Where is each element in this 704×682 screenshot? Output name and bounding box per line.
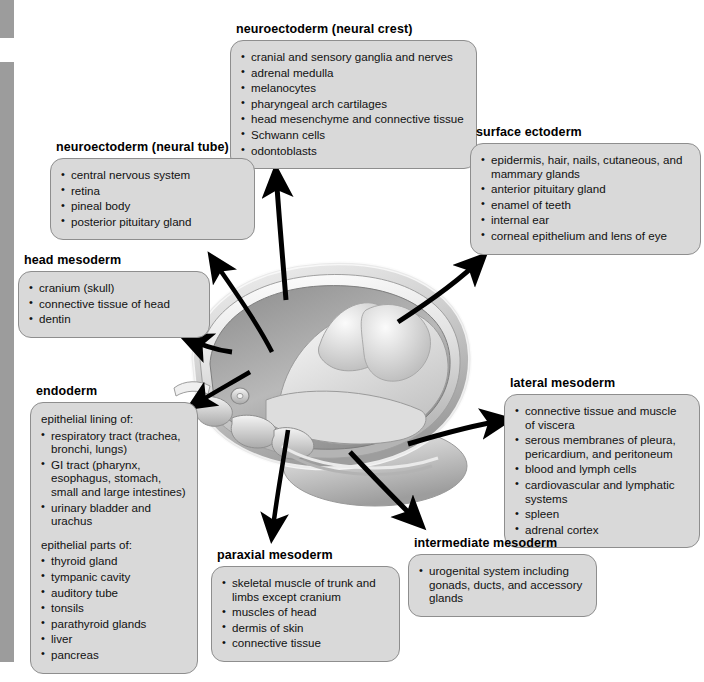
list-paraxial-mesoderm: skeletal muscle of trunk and limbs excep… — [220, 576, 389, 650]
list-item: pharyngeal arch cartilages — [239, 97, 466, 111]
group-neuroectoderm-neural-tube: neuroectoderm (neural tube) central nerv… — [50, 140, 255, 240]
list-item: auditory tube — [39, 586, 187, 600]
group-title: neuroectoderm (neural crest) — [236, 22, 477, 36]
list-item: anterior pituitary gland — [479, 182, 690, 196]
list-endoderm-lining: respiratory tract (trachea, bronchi, lun… — [39, 429, 187, 528]
card-endoderm: epithelial lining of: respiratory tract … — [30, 402, 198, 674]
list-item: cardiovascular and lymphatic systems — [513, 478, 689, 505]
card-lateral-mesoderm: connective tissue and muscle of viscera … — [504, 394, 700, 548]
list-item: tonsils — [39, 601, 187, 615]
card-surface-ectoderm: epidermis, hair, nails, cutaneous, and m… — [470, 143, 701, 255]
list-item: respiratory tract (trachea, bronchi, lun… — [39, 429, 187, 456]
list-lateral-mesoderm: connective tissue and muscle of viscera … — [513, 404, 689, 536]
list-item: GI tract (pharynx, esophagus, stomach, s… — [39, 458, 187, 499]
list-item: internal ear — [479, 213, 690, 227]
group-neuroectoderm-neural-crest: neuroectoderm (neural crest) cranial and… — [230, 22, 477, 169]
list-head-mesoderm: cranium (skull) connective tissue of hea… — [27, 281, 199, 326]
list-item: dermis of skin — [220, 621, 389, 635]
list-item: melanocytes — [239, 81, 466, 95]
group-head-mesoderm: head mesoderm cranium (skull) connective… — [18, 253, 210, 338]
group-paraxial-mesoderm: paraxial mesoderm skeletal muscle of tru… — [211, 548, 400, 662]
list-item: connective tissue — [220, 636, 389, 650]
card-paraxial-mesoderm: skeletal muscle of trunk and limbs excep… — [211, 566, 400, 662]
page-edge-strip-bottom — [0, 62, 14, 662]
group-lateral-mesoderm: lateral mesoderm connective tissue and m… — [504, 376, 700, 548]
group-endoderm: endoderm epithelial lining of: respirato… — [30, 384, 198, 674]
list-item: head mesenchyme and connective tissue — [239, 112, 466, 126]
list-item: enamel of teeth — [479, 198, 690, 212]
embryo-cross-section-illustration — [170, 248, 480, 518]
list-item: liver — [39, 632, 187, 646]
list-item: connective tissue of head — [27, 297, 199, 311]
list-endoderm-parts: thyroid gland tympanic cavity auditory t… — [39, 554, 187, 661]
list-item: spleen — [513, 507, 689, 521]
list-item: adrenal cortex — [513, 523, 689, 537]
card-neural-crest: cranial and sensory ganglia and nerves a… — [230, 40, 477, 169]
list-item: pancreas — [39, 648, 187, 662]
list-item: urinary bladder and urachus — [39, 501, 187, 528]
list-item: corneal epithelium and lens of eye — [479, 229, 690, 243]
card-head-mesoderm: cranium (skull) connective tissue of hea… — [18, 271, 210, 338]
group-surface-ectoderm: surface ectoderm epidermis, hair, nails,… — [470, 125, 701, 255]
list-item: urogenital system including gonads, duct… — [417, 564, 586, 605]
list-surface-ectoderm: epidermis, hair, nails, cutaneous, and m… — [479, 153, 690, 243]
list-item: cranial and sensory ganglia and nerves — [239, 50, 466, 64]
list-neural-crest: cranial and sensory ganglia and nerves a… — [239, 50, 466, 157]
list-item: pineal body — [59, 199, 244, 213]
embryo-svg — [170, 248, 480, 518]
list-item: epidermis, hair, nails, cutaneous, and m… — [479, 153, 690, 180]
endoderm-lead-2: epithelial parts of: — [41, 538, 187, 552]
list-item: central nervous system — [59, 168, 244, 182]
list-item: parathyroid glands — [39, 617, 187, 631]
list-item: muscles of head — [220, 605, 389, 619]
list-item: serous membranes of pleura, pericardium,… — [513, 433, 689, 460]
list-intermediate-mesoderm: urogenital system including gonads, duct… — [417, 564, 586, 605]
endoderm-lead-1: epithelial lining of: — [41, 412, 187, 426]
group-title: intermediate mesoderm — [414, 536, 597, 550]
list-neural-tube: central nervous system retina pineal bod… — [59, 168, 244, 228]
list-item: odontoblasts — [239, 144, 466, 158]
group-title: surface ectoderm — [476, 125, 701, 139]
list-item: dentin — [27, 312, 199, 326]
spacer — [39, 530, 187, 538]
group-title: lateral mesoderm — [510, 376, 700, 390]
group-title: head mesoderm — [24, 253, 210, 267]
card-intermediate-mesoderm: urogenital system including gonads, duct… — [408, 554, 597, 617]
page-edge-strip-top — [0, 0, 14, 38]
list-item: connective tissue and muscle of viscera — [513, 404, 689, 431]
list-item: Schwann cells — [239, 128, 466, 142]
list-item: posterior pituitary gland — [59, 215, 244, 229]
list-item: cranium (skull) — [27, 281, 199, 295]
list-item: adrenal medulla — [239, 66, 466, 80]
list-item: blood and lymph cells — [513, 462, 689, 476]
list-item: retina — [59, 184, 244, 198]
group-title: paraxial mesoderm — [217, 548, 400, 562]
group-title: neuroectoderm (neural tube) — [56, 140, 255, 154]
list-item: skeletal muscle of trunk and limbs excep… — [220, 576, 389, 603]
group-title: endoderm — [36, 384, 198, 398]
group-intermediate-mesoderm: intermediate mesoderm urogenital system … — [408, 536, 597, 617]
card-neural-tube: central nervous system retina pineal bod… — [50, 158, 255, 240]
list-item: thyroid gland — [39, 554, 187, 568]
list-item: tympanic cavity — [39, 570, 187, 584]
